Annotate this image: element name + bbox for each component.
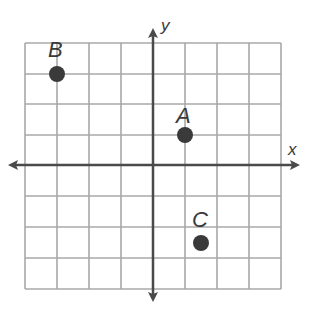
point-a: A: [174, 103, 193, 143]
point-c-label: C: [192, 207, 208, 232]
y-axis-label: y: [160, 16, 171, 35]
point-b: B: [48, 37, 65, 82]
point-b-dot: [49, 66, 65, 82]
point-a-label: A: [174, 103, 191, 128]
point-a-dot: [177, 127, 193, 143]
point-c-dot: [193, 235, 209, 251]
point-c: C: [192, 207, 209, 251]
point-b-label: B: [48, 37, 63, 62]
coordinate-plane: x y B A C: [0, 0, 318, 309]
x-axis-label: x: [287, 140, 297, 159]
